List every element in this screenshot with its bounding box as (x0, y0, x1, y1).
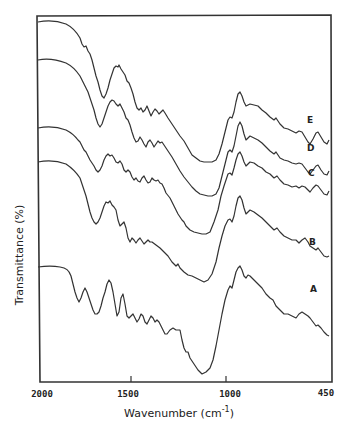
x-tick-label-450: 450 (318, 388, 334, 398)
trace-a (38, 266, 329, 374)
series-label-b: B (309, 237, 316, 247)
ftir-spectra-chart: 2000 1500 1000 450 Wavenumber (cm-1) Tra… (0, 0, 352, 440)
series-label-d: D (307, 143, 314, 153)
x-tick-label-1000: 1000 (219, 389, 241, 399)
x-tick-label-1500: 1500 (117, 389, 139, 399)
trace-e (38, 21, 329, 162)
trace-c (38, 127, 329, 234)
series-label-c: C (308, 168, 315, 178)
series-label-a: A (310, 284, 317, 294)
series-label-e: E (307, 115, 313, 125)
x-tick-label-2000: 2000 (31, 389, 53, 399)
x-axis-label: Wavenumber (cm-1) (124, 405, 234, 420)
plot-frame (37, 15, 332, 382)
trace-d (38, 59, 329, 196)
y-axis-label: Transmittance (%) (13, 205, 26, 307)
